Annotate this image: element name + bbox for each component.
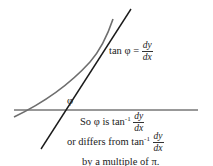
fraction-numerator: dy — [153, 132, 164, 143]
caption-line-3: by a multiple of π. — [82, 157, 159, 166]
caption-line-1-text: So φ is tan — [80, 116, 125, 127]
tan-phi-lhs: tan φ = — [109, 45, 139, 56]
caption-line-2: or differs from tan-1 dy dx — [67, 132, 164, 153]
angle-label: φ — [67, 96, 73, 107]
curve — [14, 19, 113, 117]
fraction-numerator: dy — [142, 41, 153, 52]
fraction-denominator: dx — [153, 143, 164, 153]
dy-dx-fraction: dy dx — [142, 41, 153, 62]
caption-line-2-fraction: dy dx — [153, 132, 164, 153]
tan-phi-annotation: tan φ = dy dx — [109, 41, 153, 62]
fraction-numerator: dy — [133, 112, 144, 123]
caption-line-1: So φ is tan-1 dy dx — [80, 112, 144, 133]
caption-line-2-text: or differs from tan — [67, 136, 144, 147]
fraction-denominator: dx — [142, 52, 153, 62]
caption-line-1-sup: -1 — [125, 115, 131, 123]
caption-line-1-fraction: dy dx — [133, 112, 144, 133]
caption-line-2-sup: -1 — [144, 135, 150, 143]
